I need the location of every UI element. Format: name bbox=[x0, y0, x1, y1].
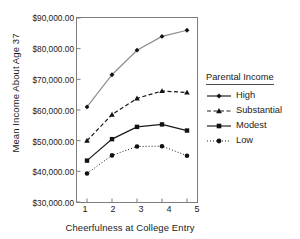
y-axis-tick-labels: $30,000.00 $40,000.00 $50,000.00 $60,000… bbox=[14, 0, 74, 239]
series-canvas bbox=[77, 18, 197, 202]
x-axis-title: Cheerfulness at College Entry bbox=[40, 222, 220, 233]
income-by-cheerfulness-chart: Mean Income About Age 37 $30,000.00 $40,… bbox=[0, 0, 300, 239]
x-tick-label: 2 bbox=[106, 205, 120, 214]
legend-key-triangle-icon bbox=[206, 105, 232, 117]
legend-label: Substantial bbox=[236, 105, 282, 116]
legend-item-substantial[interactable]: Substantial bbox=[206, 103, 300, 118]
legend-key-square-icon bbox=[206, 120, 232, 132]
legend-key-diamond-icon bbox=[206, 90, 232, 102]
x-tick-label: 3 bbox=[134, 205, 148, 214]
y-tick-label: $40,000.00 bbox=[14, 168, 74, 176]
legend-item-high[interactable]: High bbox=[206, 88, 300, 103]
legend-item-modest[interactable]: Modest bbox=[206, 118, 300, 133]
x-tick-label: 4 bbox=[162, 205, 176, 214]
legend-label: High bbox=[236, 90, 255, 101]
legend-key-circle-icon bbox=[206, 135, 232, 147]
legend-label: Modest bbox=[236, 120, 267, 131]
legend-title: Parental Income bbox=[206, 72, 274, 85]
x-tick-label: 5 bbox=[190, 205, 204, 214]
y-tick-label: $70,000.00 bbox=[14, 76, 74, 84]
y-tick-label: $90,000.00 bbox=[14, 14, 74, 22]
y-tick-label: $50,000.00 bbox=[14, 138, 74, 146]
plot-area bbox=[76, 17, 198, 203]
y-tick-label: $60,000.00 bbox=[14, 107, 74, 115]
x-axis-tick-labels: 1 2 3 4 5 bbox=[0, 205, 300, 221]
y-tick-label: $80,000.00 bbox=[14, 45, 74, 53]
x-tick-label: 1 bbox=[78, 205, 92, 214]
legend: Parental Income High Substantial Modest … bbox=[206, 66, 300, 148]
legend-label: Low bbox=[236, 135, 253, 146]
legend-item-low[interactable]: Low bbox=[206, 133, 300, 148]
